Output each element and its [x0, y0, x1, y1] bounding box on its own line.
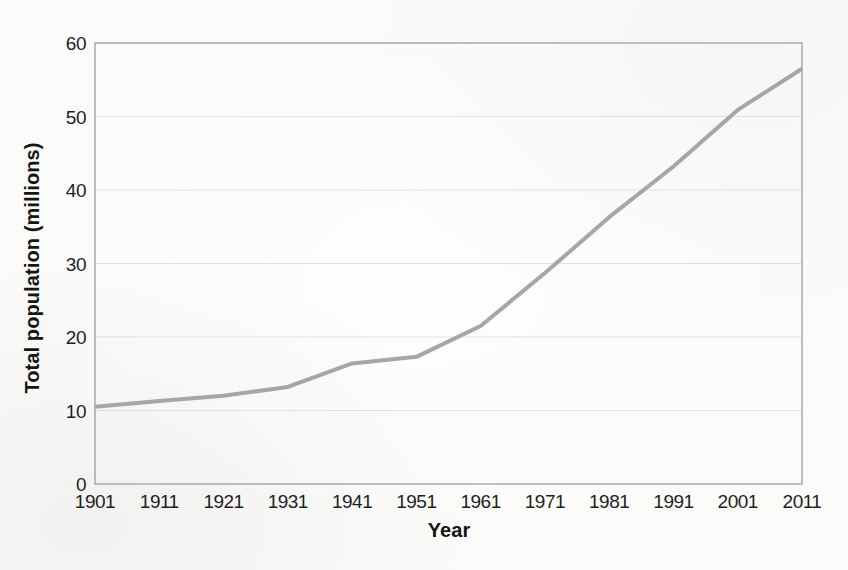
x-tick-label-2011: 2011	[783, 491, 822, 512]
y-axis-title: Total population (millions)	[21, 142, 44, 393]
x-tick-label-1931: 1931	[268, 491, 308, 512]
x-tick-label-1911: 1911	[140, 491, 179, 512]
chart-canvas: 0102030405060190119111921193119411951196…	[0, 0, 848, 570]
x-tick-label-1951: 1951	[396, 491, 436, 512]
x-tick-label-1981: 1981	[589, 491, 629, 512]
x-tick-label-1971: 1971	[525, 491, 565, 512]
x-tick-label-1901: 1901	[75, 491, 115, 512]
y-tick-label-20: 20	[66, 327, 86, 348]
y-tick-label-40: 40	[66, 180, 86, 201]
x-axis-title: Year	[428, 519, 471, 542]
y-tick-label-10: 10	[66, 401, 86, 422]
y-tick-label-30: 30	[66, 254, 86, 275]
x-tick-label-1961: 1961	[460, 491, 500, 512]
x-tick-label-2001: 2001	[718, 491, 758, 512]
y-tick-label-50: 50	[66, 107, 86, 128]
population-series-line	[95, 69, 802, 407]
x-tick-label-1941: 1941	[332, 491, 372, 512]
x-tick-label-1991: 1991	[653, 491, 693, 512]
y-tick-label-60: 60	[66, 33, 86, 54]
x-tick-label-1921: 1921	[203, 491, 243, 512]
population-line-chart: 0102030405060190119111921193119411951196…	[0, 0, 848, 570]
scanned-chart-page: 0102030405060190119111921193119411951196…	[0, 0, 848, 570]
